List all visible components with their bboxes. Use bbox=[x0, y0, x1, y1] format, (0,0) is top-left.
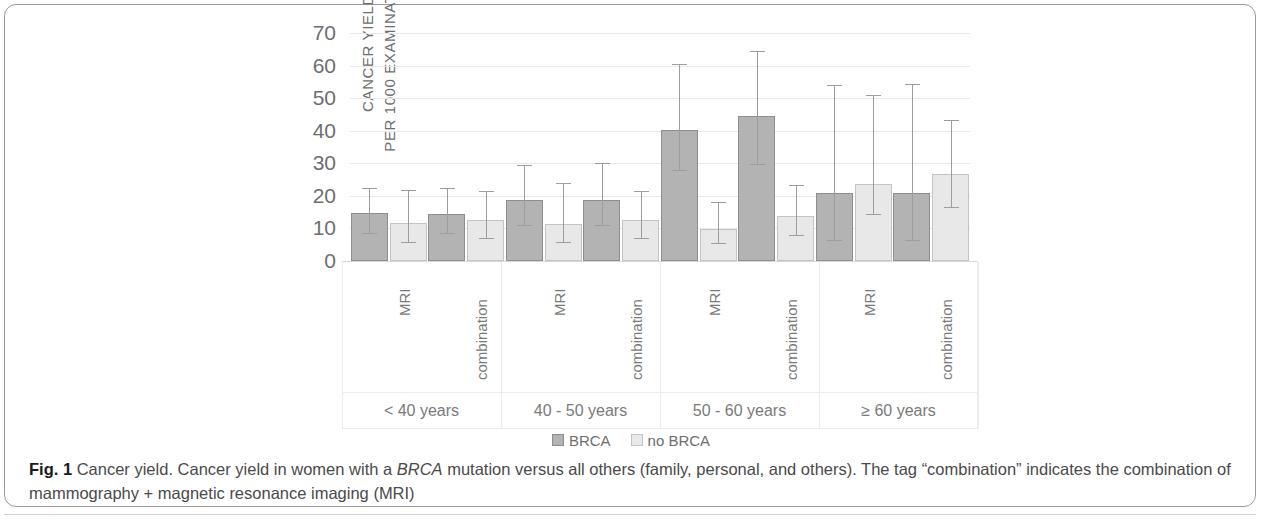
error-cap-upper bbox=[750, 51, 765, 52]
legend-item: BRCA bbox=[552, 432, 611, 449]
error-cap-upper bbox=[905, 84, 920, 85]
series-label-mri: MRI bbox=[551, 289, 568, 317]
error-bar bbox=[834, 85, 835, 240]
error-cap-lower bbox=[401, 242, 416, 243]
y-tick-label: 30 bbox=[294, 152, 336, 173]
gridline bbox=[350, 33, 970, 34]
error-cap-upper bbox=[866, 95, 881, 96]
series-label-combination: combination bbox=[783, 299, 800, 380]
error-bar bbox=[757, 51, 758, 164]
error-cap-lower bbox=[672, 170, 687, 171]
group-label: 50 - 60 years bbox=[660, 398, 819, 424]
error-cap-upper bbox=[401, 190, 416, 191]
error-bar bbox=[602, 163, 603, 225]
category-separator bbox=[978, 262, 979, 393]
error-cap-lower bbox=[905, 240, 920, 241]
error-cap-upper bbox=[711, 202, 726, 203]
error-cap-upper bbox=[362, 188, 377, 189]
error-cap-lower bbox=[479, 238, 494, 239]
error-bar bbox=[641, 191, 642, 238]
legend-swatch-brca bbox=[552, 434, 564, 446]
error-cap-lower bbox=[750, 164, 765, 165]
category-separator bbox=[501, 262, 502, 393]
series-label-combination: combination bbox=[628, 299, 645, 380]
series-label-mri: MRI bbox=[396, 289, 413, 317]
error-bar bbox=[408, 190, 409, 242]
error-bar bbox=[369, 188, 370, 233]
y-tick-label: 10 bbox=[294, 217, 336, 238]
error-cap-lower bbox=[440, 233, 455, 234]
figure-page: CANCER YIELD PER 1000 EXAMINATIONS 70605… bbox=[0, 0, 1264, 523]
y-tick-label: 60 bbox=[294, 55, 336, 76]
error-cap-lower bbox=[866, 214, 881, 215]
figure-label: Fig. 1 bbox=[29, 460, 72, 478]
error-cap-upper bbox=[634, 191, 649, 192]
error-cap-upper bbox=[944, 120, 959, 121]
caption-part-1: Cancer yield. Cancer yield in women with… bbox=[72, 460, 397, 478]
caption-emphasis-brca: BRCA bbox=[397, 460, 443, 478]
error-bar bbox=[951, 120, 952, 207]
category-separator bbox=[342, 262, 343, 393]
figure-caption: Fig. 1 Cancer yield. Cancer yield in wom… bbox=[29, 457, 1244, 505]
group-label: ≥ 60 years bbox=[819, 398, 978, 424]
category-separator bbox=[660, 262, 661, 393]
error-bar bbox=[447, 188, 448, 233]
error-bar bbox=[524, 165, 525, 226]
error-cap-lower bbox=[595, 225, 610, 226]
error-cap-upper bbox=[556, 183, 571, 184]
legend-label: no BRCA bbox=[648, 432, 711, 449]
chart-legend: BRCAno BRCA bbox=[5, 429, 1257, 451]
y-tick-label: 50 bbox=[294, 87, 336, 108]
error-cap-lower bbox=[517, 225, 532, 226]
y-tick-label: 20 bbox=[294, 185, 336, 206]
error-bar bbox=[796, 185, 797, 235]
error-cap-lower bbox=[711, 243, 726, 244]
legend-item: no BRCA bbox=[631, 432, 711, 449]
error-cap-lower bbox=[556, 242, 571, 243]
y-tick-label: 0 bbox=[294, 250, 336, 271]
error-cap-upper bbox=[595, 163, 610, 164]
legend-label: BRCA bbox=[569, 432, 611, 449]
series-label-combination: combination bbox=[473, 299, 490, 380]
gridline bbox=[350, 66, 970, 67]
group-separator bbox=[978, 393, 979, 429]
error-bar bbox=[679, 64, 680, 170]
error-cap-upper bbox=[789, 185, 804, 186]
error-cap-lower bbox=[634, 238, 649, 239]
error-bar bbox=[912, 84, 913, 240]
error-cap-lower bbox=[944, 207, 959, 208]
series-label-mri: MRI bbox=[861, 289, 878, 317]
y-tick-label: 70 bbox=[294, 22, 336, 43]
error-cap-upper bbox=[827, 85, 842, 86]
error-cap-lower bbox=[789, 235, 804, 236]
error-cap-upper bbox=[517, 165, 532, 166]
plot-area bbox=[350, 33, 970, 261]
group-label: 40 - 50 years bbox=[501, 398, 660, 424]
series-label-mri: MRI bbox=[706, 289, 723, 317]
error-bar bbox=[718, 202, 719, 244]
y-axis-tick-labels: 706050403020100 bbox=[294, 33, 336, 261]
group-label: < 40 years bbox=[342, 398, 501, 424]
error-cap-upper bbox=[479, 191, 494, 192]
figure-frame: CANCER YIELD PER 1000 EXAMINATIONS 70605… bbox=[4, 4, 1256, 507]
error-cap-lower bbox=[827, 240, 842, 241]
gridline bbox=[350, 98, 970, 99]
page-bottom-rule bbox=[4, 514, 1256, 515]
y-tick-label: 40 bbox=[294, 120, 336, 141]
error-bar bbox=[486, 191, 487, 238]
error-bar bbox=[873, 95, 874, 215]
error-cap-upper bbox=[672, 64, 687, 65]
series-label-combination: combination bbox=[938, 299, 955, 380]
error-cap-upper bbox=[440, 188, 455, 189]
error-bar bbox=[563, 183, 564, 243]
legend-swatch-nobrca bbox=[631, 434, 643, 446]
error-cap-lower bbox=[362, 233, 377, 234]
category-separator bbox=[819, 262, 820, 393]
chart-figure: CANCER YIELD PER 1000 EXAMINATIONS 70605… bbox=[5, 5, 1257, 445]
